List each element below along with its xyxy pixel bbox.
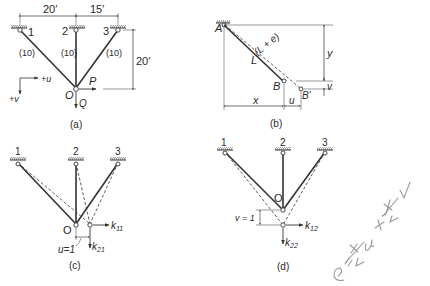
k22-label: k22	[285, 237, 298, 249]
axis-u-label: +u	[41, 74, 51, 84]
d-displacement-label: v = 1	[235, 213, 255, 223]
d-node-1-label: 1	[221, 137, 227, 148]
panel-b: A B B′ L (L + e) y v x u (b)	[214, 20, 334, 129]
load-q-label: Q	[79, 98, 87, 109]
caption-b: (b)	[270, 118, 282, 129]
dim-v-label: v	[327, 81, 333, 92]
member-3	[76, 30, 118, 88]
node-2-label: 2	[62, 25, 68, 37]
dim-left-label: 20′	[43, 3, 57, 15]
caption-c: (c)	[69, 260, 81, 271]
dim-right-label: 15′	[90, 3, 104, 15]
bar-ab-prime-dashed	[225, 25, 300, 88]
point-a-label: A	[214, 22, 222, 34]
dim-height-label: 20′	[136, 55, 150, 67]
caption-d: (d)	[277, 261, 289, 272]
handwritten-note	[334, 182, 410, 281]
node-3-label: 3	[103, 25, 109, 37]
c-node-2-label: 2	[73, 146, 79, 157]
panel-d: 1 2 3 O v = 1 k12 k22 (d)	[217, 137, 333, 272]
load-p-label: P	[89, 75, 97, 87]
d-node-2-label: 2	[280, 137, 286, 148]
c-node-3-label: 3	[115, 146, 121, 157]
d-joint-o-label: O	[274, 192, 283, 204]
point-b-prime-label: B′	[302, 90, 312, 101]
point-b-label: B	[273, 80, 280, 92]
c-displacement-label: u=1	[58, 244, 75, 255]
caption-a: (a)	[70, 119, 82, 130]
node-1-label: 1	[28, 26, 34, 38]
c-node-1-label: 1	[15, 146, 21, 157]
axis-v-label: +v	[9, 94, 19, 104]
elongated-length-label: (L + e)	[252, 31, 282, 58]
member-1-area: (10)	[19, 48, 35, 58]
member-3-area: (10)	[106, 48, 122, 58]
dim-x-label: x	[252, 94, 259, 106]
truss-figure: 20′ 15′ 20′ 1 2 3 (10) (10) (10) O P Q +…	[0, 0, 430, 286]
d-node-3-label: 3	[322, 137, 328, 148]
dim-y-label: y	[326, 47, 334, 59]
member-2-area: (10)	[61, 48, 77, 58]
panel-c: 1 2 3 O k11 k21 u=1 (c)	[10, 146, 126, 271]
joint-o-label: O	[65, 89, 74, 101]
dim-u-label: u	[289, 95, 295, 106]
k12-label: k12	[305, 220, 318, 232]
c-joint-o-label: O	[63, 224, 72, 236]
k21-label: k21	[92, 241, 105, 253]
panel-a: 20′ 15′ 20′ 1 2 3 (10) (10) (10) O P Q +…	[9, 3, 150, 130]
k11-label: k11	[111, 220, 123, 232]
